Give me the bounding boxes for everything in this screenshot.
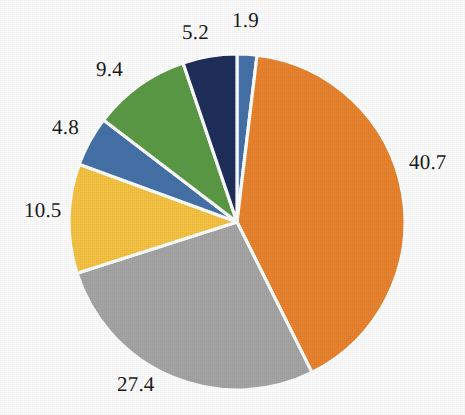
chart-page: 1.940.727.410.54.89.45.2: [0, 0, 465, 415]
pie-slice-value-label: 10.5: [24, 200, 62, 221]
pie-slice-value-label: 9.4: [96, 59, 123, 80]
pie-slice-value-label: 27.4: [117, 374, 155, 395]
pie-slice-value-label: 1.9: [232, 10, 259, 31]
pie-slice-value-label: 4.8: [52, 117, 79, 138]
pie-slice-value-label: 5.2: [182, 22, 209, 43]
pie-chart: [0, 0, 465, 415]
pie-slice-value-label: 40.7: [409, 152, 447, 173]
